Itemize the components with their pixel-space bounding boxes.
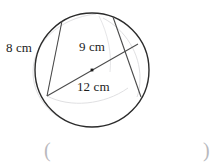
label-chord-8cm: 8 cm [6, 41, 32, 54]
label-diameter-12cm: 12 cm [77, 80, 110, 93]
circle-center-dot [91, 69, 94, 72]
answer-close-paren: ) [203, 140, 210, 160]
label-chord-9cm: 9 cm [79, 40, 105, 53]
geometry-figure: 8 cm 9 cm 12 cm ( ) [0, 0, 216, 167]
faint-arc-left-icon [33, 14, 96, 122]
answer-open-paren: ( [44, 140, 51, 160]
construction-arcs-group [33, 14, 140, 122]
